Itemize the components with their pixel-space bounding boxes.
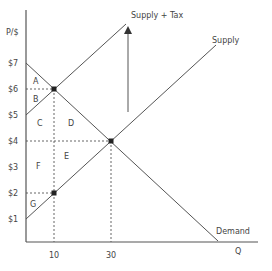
point-q10-p6 — [52, 87, 57, 92]
y-tick-5: $5 — [8, 111, 18, 120]
supply-plus-tax-label: Supply + Tax — [131, 11, 184, 20]
y-tick-1: $1 — [8, 215, 18, 224]
y-tick-6: $6 — [8, 85, 18, 94]
y-axis-label: P/$ — [6, 28, 19, 37]
point-q10-p2 — [52, 191, 57, 196]
supply-demand-tax-chart: P/$ Q $7 $6 $5 $4 $3 $2 $1 10 30 Supply … — [0, 0, 272, 271]
supply-label: Supply — [212, 36, 240, 45]
area-label-d: D — [68, 119, 74, 128]
y-tick-7: $7 — [8, 59, 18, 68]
x-axis-label: Q — [235, 247, 241, 256]
y-tick-2: $2 — [8, 189, 18, 198]
demand-label: Demand — [216, 227, 250, 236]
area-label-a: A — [33, 77, 39, 86]
area-label-c: C — [37, 119, 43, 128]
y-tick-3: $3 — [8, 163, 18, 172]
area-label-b: B — [33, 95, 39, 104]
x-tick-10: 10 — [49, 251, 59, 260]
supply-plus-tax-line — [26, 24, 126, 115]
area-label-f: F — [36, 162, 41, 171]
y-tick-4: $4 — [8, 137, 18, 146]
area-label-g: G — [30, 200, 36, 209]
arrow-up-icon — [124, 26, 132, 34]
area-label-e: E — [64, 152, 69, 161]
point-q30-p4 — [109, 139, 114, 144]
x-tick-30: 30 — [106, 251, 116, 260]
